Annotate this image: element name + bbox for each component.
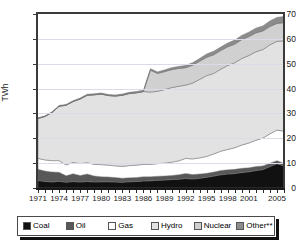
x-axis-tick-mark	[277, 190, 278, 193]
x-axis-tick-mark	[228, 190, 229, 193]
x-axis-tick-mark	[214, 190, 215, 193]
x-axis-tick-mark	[242, 190, 243, 193]
y-axis-tick-label: 10	[264, 159, 296, 168]
x-axis-tick-label: 2005	[264, 195, 290, 203]
stacked-area-series	[38, 14, 284, 188]
x-axis-tick-mark	[129, 190, 130, 193]
gridline	[38, 89, 284, 90]
legend-swatch-icon	[194, 222, 202, 230]
x-axis-tick-mark	[263, 190, 264, 193]
legend-swatch-icon	[236, 222, 244, 230]
x-axis-tick-mark	[80, 190, 81, 193]
legend-item-label: Other**	[246, 222, 272, 230]
legend-item-other[interactable]: Other**	[231, 222, 274, 230]
legend-item-label: Oil	[76, 222, 86, 230]
legend-item-oil[interactable]: Oil	[61, 222, 104, 230]
y-axis-label: TWh	[1, 71, 10, 115]
chart-legend: CoalOilGasHydroNuclearOther**	[17, 216, 275, 236]
legend-item-nuclear[interactable]: Nuclear	[189, 222, 232, 230]
y-axis-tick-label: 20	[264, 134, 296, 143]
x-axis-tick-mark	[186, 190, 187, 193]
y-axis-tick-mark	[33, 89, 36, 90]
y-axis-tick-mark	[33, 138, 36, 139]
legend-item-label: Nuclear	[204, 222, 232, 230]
y-axis-tick-label: 40	[264, 85, 296, 94]
y-axis-tick-mark	[33, 163, 36, 164]
x-axis-tick-mark	[200, 190, 201, 193]
x-axis-tick-mark	[179, 190, 180, 193]
legend-item-label: Gas	[118, 222, 133, 230]
gridline	[38, 163, 284, 164]
gridline	[38, 113, 284, 114]
x-axis-tick-mark	[45, 190, 46, 193]
x-axis-tick-mark	[193, 190, 194, 193]
x-axis-tick-mark	[157, 190, 158, 193]
legend-shadow	[20, 237, 279, 240]
y-axis-tick-label: 0	[264, 184, 296, 193]
x-axis-tick-mark	[108, 190, 109, 193]
x-axis-tick-mark	[73, 190, 74, 193]
x-axis-tick-mark	[94, 190, 95, 193]
x-axis-tick-mark	[221, 190, 222, 193]
legend-swatch-icon	[23, 222, 31, 230]
y-axis-tick-mark	[33, 64, 36, 65]
plot-area	[36, 12, 284, 188]
x-axis-tick-mark	[270, 190, 271, 193]
gridline	[38, 138, 284, 139]
x-axis-tick-mark	[143, 190, 144, 193]
legend-item-label: Hydro	[161, 222, 182, 230]
y-axis-tick-label: 70	[264, 10, 296, 19]
legend-swatch-icon	[66, 222, 74, 230]
legend-item-gas[interactable]: Gas	[103, 222, 146, 230]
x-axis-tick-mark	[172, 190, 173, 193]
y-axis-tick-mark	[33, 39, 36, 40]
y-axis-tick-mark	[33, 188, 36, 189]
x-axis-tick-mark	[249, 190, 250, 193]
y-axis-tick-mark	[33, 14, 36, 15]
x-axis-tick-mark	[66, 190, 67, 193]
y-axis-tick-label: 50	[264, 60, 296, 69]
x-axis-tick-mark	[122, 190, 123, 193]
x-axis-tick-mark	[52, 190, 53, 193]
x-axis-tick-mark	[115, 190, 116, 193]
gridline	[38, 64, 284, 65]
legend-shadow-right	[276, 219, 279, 240]
y-axis-tick-label: 60	[264, 35, 296, 44]
gridline	[38, 39, 284, 40]
x-axis-tick-mark	[101, 190, 102, 193]
legend-item-hydro[interactable]: Hydro	[146, 222, 189, 230]
y-axis-tick-label: 30	[264, 109, 296, 118]
y-axis-tick-mark	[33, 113, 36, 114]
x-axis-tick-mark	[165, 190, 166, 193]
x-axis-tick-label: 2001	[236, 195, 262, 203]
legend-swatch-icon	[108, 222, 116, 230]
x-axis-tick-mark	[59, 190, 60, 193]
x-axis-tick-mark	[38, 190, 39, 193]
chart-figure: 010203040506070 TWh 19711974197719801983…	[0, 0, 296, 251]
legend-item-coal[interactable]: Coal	[18, 222, 61, 230]
legend-swatch-icon	[151, 222, 159, 230]
x-axis-tick-mark	[87, 190, 88, 193]
x-axis-tick-mark	[150, 190, 151, 193]
x-axis-tick-mark	[136, 190, 137, 193]
x-axis-tick-mark	[256, 190, 257, 193]
legend-item-label: Coal	[33, 222, 49, 230]
x-axis-tick-mark	[235, 190, 236, 193]
x-axis-tick-mark	[207, 190, 208, 193]
x-axis-tick-mark	[284, 190, 285, 193]
